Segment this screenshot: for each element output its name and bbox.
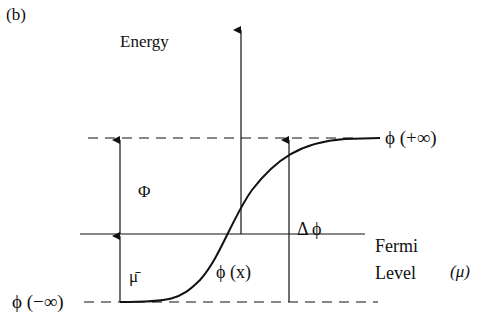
delta-phi-label: Δ ϕ (297, 220, 322, 238)
curve-label: ϕ (x) (216, 263, 251, 281)
work-function-label: Φ (138, 183, 150, 200)
fermi-label-line1: Fermi (375, 237, 418, 255)
fermi-label-line2: Level (375, 264, 416, 282)
mu-symbol-label: (μ) (450, 263, 470, 280)
panel-label: (b) (6, 6, 26, 23)
top-level-label: ϕ (+∞) (385, 128, 437, 147)
energy-axis-label: Energy (120, 33, 169, 50)
mu-bar-label: μ̄ (129, 268, 138, 285)
bottom-level-label: ϕ (−∞) (12, 292, 64, 311)
